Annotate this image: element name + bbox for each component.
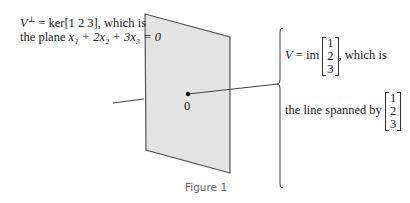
- brace: [277, 28, 283, 188]
- line-v-behind: [113, 99, 144, 103]
- vector-1-2-3-span: 1 2 3: [385, 92, 401, 131]
- line-spanned-label: the line spanned by 1 2 3: [285, 92, 401, 131]
- v-image-label: V = im 1 2 3 , which is: [285, 37, 387, 76]
- origin-point: [186, 92, 190, 96]
- origin-label: 0: [184, 99, 190, 113]
- figure-caption: Figure 1: [185, 181, 227, 193]
- vector-1-2-3: 1 2 3: [322, 37, 338, 76]
- v-perp-label: V⊥ = ker[1 2 3], which is the plane x₁ +…: [20, 13, 161, 44]
